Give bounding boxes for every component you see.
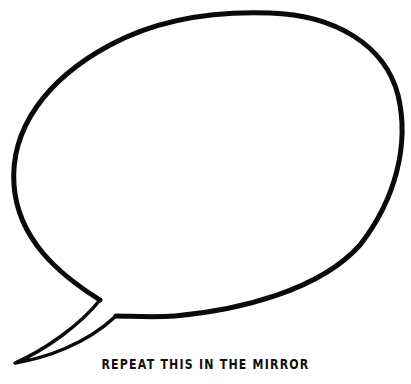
bubble-tail <box>15 300 116 363</box>
caption-text: REPEAT THIS IN THE MIRROR <box>0 356 411 372</box>
bubble-outline <box>14 13 402 317</box>
speech-bubble-icon <box>0 0 411 384</box>
